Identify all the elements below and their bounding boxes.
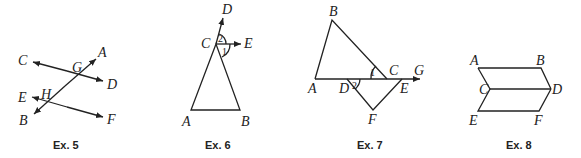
label-A: A	[307, 81, 317, 96]
label-H: H	[40, 87, 52, 102]
label-C: C	[389, 63, 399, 78]
label-E: E	[399, 81, 409, 96]
caption-ex7: Ex. 7	[357, 139, 383, 151]
label-A: A	[181, 114, 191, 129]
label-B: B	[19, 113, 28, 128]
label-B: B	[241, 114, 250, 129]
figure-ex5: A B C D E F G H Ex. 5	[17, 45, 117, 151]
angle-1-label: 1	[370, 67, 375, 78]
figure-ex8: A B C D E F Ex. 8	[468, 53, 562, 151]
label-E: E	[243, 36, 253, 51]
caption-ex5: Ex. 5	[53, 139, 79, 151]
angle-2-label: 2	[352, 80, 357, 91]
angle-2-label: 2	[218, 33, 223, 44]
label-F: F	[106, 112, 116, 127]
caption-ex6: Ex. 6	[205, 139, 231, 151]
label-F: F	[367, 112, 377, 127]
label-D: D	[221, 2, 232, 17]
triangle-ABC	[191, 44, 240, 110]
label-D: D	[338, 81, 349, 96]
caption-ex8: Ex. 8	[506, 139, 532, 151]
label-C: C	[479, 82, 489, 97]
figure-ex6: 2 1 D C E A B Ex. 6	[181, 2, 253, 151]
figure-ex7: 1 2 B A C G D E F Ex. 7	[307, 4, 424, 151]
label-B: B	[536, 53, 545, 68]
side-ABD	[478, 68, 551, 89]
label-D: D	[106, 77, 117, 92]
diagram-canvas: A B C D E F G H Ex. 5 2 1 D C E A B Ex. …	[0, 0, 581, 158]
label-E: E	[468, 113, 478, 128]
angle-1-label: 1	[222, 46, 227, 57]
label-D: D	[551, 82, 562, 97]
ray-HF	[67, 107, 103, 117]
label-C: C	[18, 53, 28, 68]
triangle-ABC-sides	[315, 20, 387, 79]
label-F: F	[533, 113, 543, 128]
label-A: A	[97, 45, 107, 60]
ray-GC	[33, 62, 67, 71]
label-C: C	[201, 36, 211, 51]
label-G: G	[72, 60, 82, 75]
label-B: B	[329, 4, 338, 19]
label-E: E	[17, 90, 27, 105]
label-A: A	[469, 53, 479, 68]
label-G: G	[414, 63, 424, 78]
